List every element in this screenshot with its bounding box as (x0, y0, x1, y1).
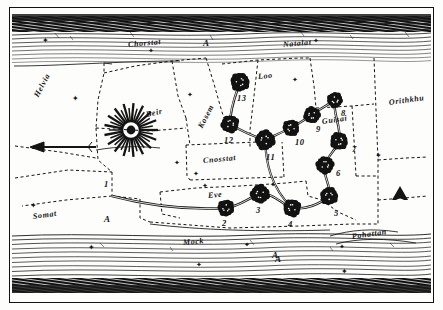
star-icon: ✦ (88, 244, 95, 252)
star-icon: ✦ (148, 47, 154, 55)
star-icon: ✦ (42, 37, 49, 45)
star-icon: ✦ (244, 241, 250, 249)
node-number-6: 6 (336, 168, 341, 178)
sunburst-ray (132, 103, 134, 121)
node-number-8: 8 (341, 108, 346, 118)
route-node-6 (315, 156, 334, 175)
map-mark-label: A (104, 214, 111, 224)
west-arrow (30, 142, 96, 152)
map-mark-label: A (275, 254, 282, 264)
star-icon: ✦ (174, 159, 180, 167)
route-node-9 (303, 106, 321, 123)
node-number-10: 10 (295, 137, 305, 147)
sunburst-ray (132, 139, 134, 157)
top-hatched-band (12, 14, 431, 63)
sunburst-core (127, 126, 136, 135)
map-figure: Chorstat A Natalat Mock A Pohattan Helvi… (0, 0, 443, 310)
triangle-marker (392, 186, 408, 200)
bottom-hatched-band (12, 234, 431, 293)
node-number-7: 7 (352, 144, 357, 154)
route-node-2 (218, 200, 235, 217)
route-node-11 (255, 129, 276, 150)
star-icon: ✦ (375, 152, 382, 160)
node-number-11: 11 (266, 152, 275, 162)
node-number-9: 9 (316, 124, 321, 134)
star-icon: ✦ (187, 91, 193, 99)
label-top-band-left-mark: A (203, 38, 210, 48)
star-icon: ✦ (72, 95, 79, 103)
node-number-5: 5 (334, 208, 339, 218)
node-number-2: 2 (222, 218, 227, 228)
route-node-8 (327, 92, 343, 108)
route-node-7 (330, 132, 347, 150)
node-number-12: 12 (224, 135, 234, 145)
star-icon: ✦ (339, 243, 345, 251)
sunburst-ray (129, 108, 130, 121)
route-node-13 (231, 73, 250, 92)
route-node-12 (220, 116, 239, 134)
star-icon: ✦ (313, 37, 319, 45)
route-node-10 (283, 120, 299, 136)
region-label-eve: Eve (208, 190, 223, 200)
sunburst-ray (129, 139, 130, 152)
route-node-5 (320, 187, 338, 205)
route-node-3 (250, 184, 270, 204)
star-icon: ✦ (270, 181, 276, 189)
route-node-4 (284, 199, 302, 217)
node-number-4: 4 (288, 219, 293, 229)
node-number-3: 3 (256, 205, 261, 215)
star-icon: ✦ (196, 261, 202, 269)
region-label-loo: Loo (258, 71, 273, 81)
label-bottom-band-center: Mock (183, 236, 205, 247)
star-icon: ✦ (202, 182, 208, 190)
star-icon: ✦ (341, 268, 348, 276)
star-icon: ✦ (193, 170, 199, 178)
node-number-13: 13 (237, 93, 247, 103)
star-icon: ✦ (30, 202, 37, 210)
node-number-1: 1 (104, 179, 109, 189)
star-icon: ✦ (292, 76, 298, 84)
